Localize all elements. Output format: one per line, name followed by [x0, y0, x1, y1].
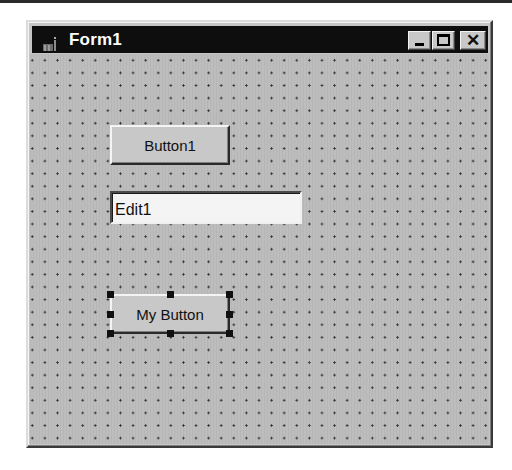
button1[interactable]: Button1	[110, 125, 230, 165]
selection-handle-bottom-right[interactable]	[226, 330, 233, 337]
minimize-button[interactable]	[408, 31, 431, 50]
my-button-label: My Button	[136, 306, 204, 323]
maximize-button[interactable]	[432, 31, 455, 50]
form-icon	[42, 36, 58, 52]
maximize-icon	[437, 34, 450, 46]
close-icon: ✕	[466, 32, 480, 49]
selection-handle-top-left[interactable]	[107, 291, 114, 298]
window-title: Form1	[69, 30, 122, 50]
title-bar[interactable]: Form1 ✕	[32, 26, 488, 53]
minimize-icon	[415, 43, 424, 46]
selection-handle-left[interactable]	[107, 311, 114, 318]
button1-label: Button1	[144, 137, 196, 154]
close-button[interactable]: ✕	[460, 31, 486, 50]
top-rule	[0, 0, 512, 3]
my-button[interactable]: My Button	[110, 294, 230, 334]
selection-handle-bottom[interactable]	[167, 330, 174, 337]
selection-handle-bottom-left[interactable]	[107, 330, 114, 337]
form-window: Form1 ✕ Button1 My Button	[26, 20, 493, 448]
form-design-surface[interactable]: Button1 My Button	[30, 54, 489, 444]
selection-handle-top[interactable]	[167, 291, 174, 298]
selection-handle-top-right[interactable]	[226, 291, 233, 298]
selection-handle-right[interactable]	[226, 311, 233, 318]
edit1-field[interactable]	[110, 191, 302, 224]
